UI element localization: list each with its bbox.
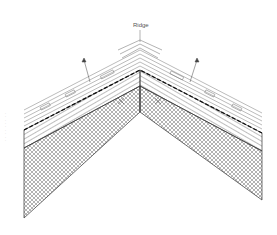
ridge-tile	[118, 40, 162, 58]
leader-arrow-left	[82, 58, 90, 82]
ridge-section-drawing: Ridge	[0, 0, 277, 235]
side-note: · · · · · · · · ·	[3, 112, 11, 192]
ridge-label: Ridge	[133, 22, 149, 28]
side-note-text: · · · · · · · · ·	[3, 112, 8, 141]
